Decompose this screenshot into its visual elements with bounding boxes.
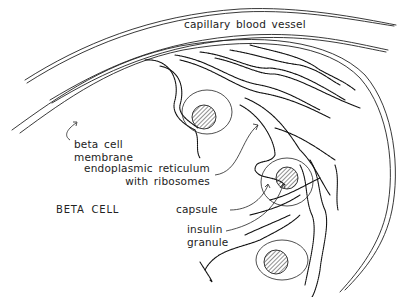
capsule-upper [182,90,232,134]
insulin-granule-upper [192,105,216,129]
label-beta-cell-membrane-1: beta cell [74,138,123,150]
label-capsule: capsule [176,203,218,215]
label-capillary-blood-vessel: capillary blood vessel [184,18,306,30]
er-arrow [215,125,258,175]
label-endoplasmic-reticulum-1: endoplasmic reticulum [80,162,210,174]
label-insulin-granule-2: granule [187,236,229,248]
label-endoplasmic-reticulum-2: with ribosomes [80,175,210,187]
capsule-lower [256,240,308,280]
diagram-drawing [0,0,404,297]
insulin-granule-lower [264,250,288,274]
beta-cell-diagram: capillary blood vessel beta cell membran… [0,0,404,297]
label-beta-cell: BETA CELL [56,204,119,216]
label-insulin-granule-1: insulin [187,223,223,235]
insulin-granule-middle [276,167,298,189]
